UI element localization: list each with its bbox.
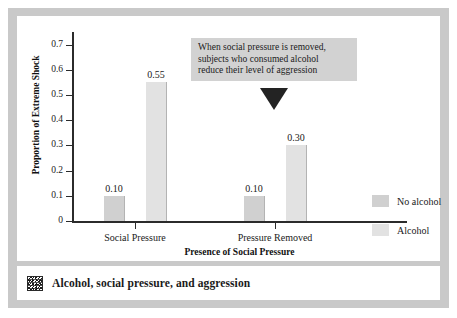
- y-tick-label: 0: [37, 215, 63, 225]
- figure-container: Proportion of Extreme Shock 00.10.20.30.…: [0, 0, 457, 318]
- bar-value-label: 0.10: [105, 183, 123, 194]
- bar-value-label: 0.30: [287, 132, 305, 143]
- y-tick-mark: [66, 120, 73, 121]
- down-triangle-icon: [260, 88, 288, 110]
- y-tick-label: 0.7: [37, 39, 63, 49]
- annotation-line-2: subjects who consumed alcohol: [198, 54, 351, 66]
- bar-rect: [104, 196, 125, 221]
- bar: 0.10: [104, 196, 124, 221]
- x-axis-line: [72, 221, 407, 223]
- y-tick-label: 0.6: [37, 64, 63, 74]
- y-tick-label: 0.2: [37, 165, 63, 175]
- y-tick-mark: [66, 95, 73, 96]
- caption-panel: Alcohol, social pressure, and aggression: [17, 266, 440, 300]
- chart-legend: No alcoholAlcohol: [372, 194, 441, 252]
- bar-rect: [244, 196, 265, 221]
- bar: 0.30: [286, 145, 306, 221]
- bar-value-label: 0.10: [245, 183, 263, 194]
- legend-label: No alcohol: [397, 196, 441, 207]
- x-tick-mark: [275, 222, 276, 229]
- annotation-callout: When social pressure is removed, subject…: [191, 38, 357, 81]
- legend-item: Alcohol: [372, 223, 441, 237]
- annotation-line-1: When social pressure is removed,: [198, 42, 351, 54]
- legend-label: Alcohol: [397, 225, 429, 236]
- chart-panel: Proportion of Extreme Shock 00.10.20.30.…: [17, 16, 440, 261]
- y-tick-label: 0.4: [37, 114, 63, 124]
- y-tick-mark: [66, 221, 73, 222]
- annotation-line-3: reduce their level of aggression: [198, 65, 351, 77]
- bar-rect: [286, 145, 307, 221]
- plot-area: Proportion of Extreme Shock 00.10.20.30.…: [17, 16, 440, 261]
- bar-value-label: 0.55: [147, 69, 165, 80]
- x-tick-mark: [135, 222, 136, 229]
- mosaic-thumbnail-icon: [27, 276, 43, 291]
- bar: 0.55: [146, 82, 166, 221]
- y-tick-label: 0.5: [37, 89, 63, 99]
- y-axis-line: [72, 32, 74, 222]
- legend-swatch: [372, 224, 389, 236]
- y-tick-mark: [66, 171, 73, 172]
- x-axis-title: Presence of Social Pressure: [72, 247, 407, 257]
- bar-rect: [146, 82, 167, 221]
- figure-caption: Alcohol, social pressure, and aggression: [52, 277, 250, 289]
- y-tick-label: 0.1: [37, 190, 63, 200]
- x-category-label: Pressure Removed: [210, 232, 340, 243]
- legend-item: No alcohol: [372, 194, 441, 208]
- y-tick-mark: [66, 45, 73, 46]
- bar: 0.10: [244, 196, 264, 221]
- y-tick-label: 0.3: [37, 139, 63, 149]
- y-tick-mark: [66, 70, 73, 71]
- legend-swatch: [372, 195, 389, 207]
- y-tick-mark: [66, 196, 73, 197]
- y-tick-mark: [66, 145, 73, 146]
- x-category-label: Social Pressure: [70, 232, 200, 243]
